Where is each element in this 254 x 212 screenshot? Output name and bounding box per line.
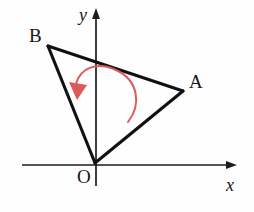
axis-group bbox=[22, 8, 237, 186]
triangle-OAB bbox=[48, 46, 183, 163]
y-axis-label: y bbox=[77, 5, 87, 25]
label-group: y x O A B bbox=[29, 5, 234, 195]
vertex-label-O: O bbox=[77, 166, 91, 187]
rotation-arc-path bbox=[76, 66, 136, 122]
triangle-edge-A-O bbox=[95, 91, 183, 163]
rotation-arrow bbox=[69, 66, 136, 122]
y-axis-arrowhead bbox=[92, 8, 100, 19]
triangle-edge-B-A bbox=[48, 46, 183, 91]
vertex-label-A: A bbox=[189, 71, 203, 92]
rotation-arrowhead-icon bbox=[69, 82, 87, 100]
x-axis-label: x bbox=[225, 175, 234, 195]
coordinate-figure: y x O A B bbox=[0, 0, 254, 212]
x-axis-arrowhead bbox=[226, 161, 237, 169]
triangle-edge-O-B bbox=[48, 46, 95, 163]
vertex-label-B: B bbox=[29, 25, 42, 46]
figure-canvas: y x O A B bbox=[0, 0, 254, 212]
